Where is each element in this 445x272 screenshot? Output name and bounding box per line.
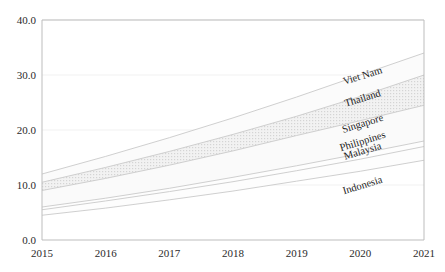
y-axis-tick-labels: 0.010.020.030.040.0	[17, 14, 37, 246]
x-tick-label-2019: 2019	[286, 247, 309, 259]
y-tick-label-1: 10.0	[17, 179, 37, 191]
y-tick-label-2: 20.0	[17, 124, 37, 136]
x-tick-label-2017: 2017	[158, 247, 181, 259]
x-tick-label-2015: 2015	[31, 247, 54, 259]
y-tick-label-0: 0.0	[22, 234, 36, 246]
x-tick-label-2018: 2018	[222, 247, 245, 259]
x-tick-label-2021: 2021	[413, 247, 435, 259]
line-chart: 0.010.020.030.040.0 20152016201720182019…	[0, 0, 445, 272]
y-tick-label-4: 40.0	[17, 14, 37, 26]
x-axis-tick-labels: 2015201620172018201920202021	[31, 247, 435, 259]
series-label-indonesia: Indonesia	[341, 174, 384, 197]
x-tick-label-2016: 2016	[95, 247, 118, 259]
x-tick-label-2020: 2020	[349, 247, 372, 259]
y-tick-label-3: 30.0	[17, 69, 37, 81]
chart-canvas: 0.010.020.030.040.0 20152016201720182019…	[0, 0, 445, 272]
